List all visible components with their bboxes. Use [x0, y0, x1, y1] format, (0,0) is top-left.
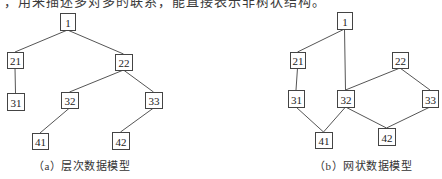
edge-33-to-42	[387, 107, 431, 128]
node-21: 21	[8, 53, 24, 69]
node-label: 33	[149, 95, 161, 107]
edge-32-to-41	[324, 107, 346, 132]
node-label: 22	[119, 57, 130, 69]
edges	[296, 29, 430, 132]
node-42: 42	[113, 133, 130, 150]
node-label: 1	[65, 17, 71, 29]
node-label: 31	[11, 97, 22, 109]
edges	[15, 30, 154, 133]
network-model-diagram: 121223132334142	[289, 13, 439, 149]
hierarchical-model-diagram: 121223132334142	[8, 14, 163, 150]
node-label: 31	[291, 94, 302, 106]
edge-22-to-32	[70, 70, 124, 92]
edge-1-to-21	[298, 29, 345, 52]
edge-22-to-33	[124, 70, 154, 92]
node-21: 21	[291, 53, 306, 69]
edge-22-to-32	[346, 68, 401, 90]
edge-1-to-21	[15, 30, 68, 52]
node-label: 42	[382, 132, 393, 144]
node-31: 31	[8, 94, 25, 111]
node-label: 33	[425, 94, 437, 106]
node-label: 21	[10, 55, 21, 67]
node-42: 42	[379, 129, 396, 146]
edge-32-to-42	[346, 107, 387, 128]
node-41: 41	[33, 134, 49, 150]
edge-32-to-41	[40, 108, 70, 133]
node-1: 1	[61, 14, 76, 31]
node-label: 42	[116, 136, 127, 148]
node-label: 1	[342, 16, 348, 28]
node-31: 31	[289, 91, 305, 108]
node-label: 21	[293, 55, 304, 67]
node-1: 1	[338, 13, 353, 30]
data-model-diagrams: 121223132334142 121223132334142	[0, 0, 442, 179]
node-label: 22	[395, 55, 406, 67]
edge-1-to-32	[345, 29, 346, 90]
caption-hierarchical-model: （a）层次数据模型	[33, 157, 130, 173]
node-label: 41	[35, 136, 46, 148]
node-32: 32	[62, 93, 79, 109]
edge-1-to-22	[68, 30, 124, 54]
node-41: 41	[316, 133, 333, 149]
edge-33-to-42	[121, 108, 154, 132]
edge-22-to-33	[400, 68, 430, 90]
edge-21-to-31	[296, 68, 298, 90]
node-32: 32	[338, 91, 355, 108]
node-33: 33	[423, 91, 439, 108]
node-label: 32	[65, 95, 76, 107]
node-22: 22	[393, 53, 409, 69]
node-label: 41	[319, 135, 330, 147]
node-label: 32	[341, 94, 352, 106]
caption-network-model: （b）网状数据模型	[314, 157, 412, 173]
node-33: 33	[146, 93, 163, 109]
edge-21-to-31	[15, 68, 16, 93]
edge-31-to-41	[296, 107, 324, 132]
nodes: 121223132334142	[289, 13, 439, 149]
node-22: 22	[116, 55, 133, 71]
